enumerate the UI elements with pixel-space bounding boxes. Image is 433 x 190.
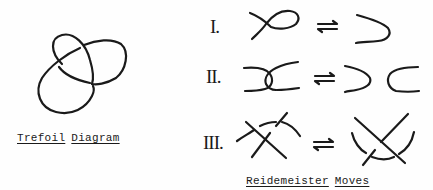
trefoil-knot-diagram bbox=[38, 35, 126, 114]
move-2-equivalence-arrow bbox=[315, 73, 334, 84]
move-3-right-triple-crossing bbox=[352, 114, 414, 165]
move-3-equivalence-arrow bbox=[314, 139, 333, 150]
move-1-equivalence-arrow bbox=[318, 21, 337, 32]
move-1-label: I. bbox=[210, 16, 219, 38]
move-1-right-curve bbox=[356, 15, 390, 43]
trefoil-caption-word: Diagram bbox=[71, 132, 119, 144]
move-2-right-separated bbox=[345, 66, 419, 92]
move-1-left-curl bbox=[250, 11, 298, 39]
reidemeister-caption: ReidemeisterMoves bbox=[246, 175, 369, 187]
reidemeister-caption-word: Reidemeister bbox=[246, 175, 329, 187]
reidemeister-caption-word: Moves bbox=[335, 175, 370, 187]
move-2-left-overlap bbox=[244, 62, 299, 91]
move-3-left-triple-crossing bbox=[237, 113, 300, 158]
move-2-label: II. bbox=[206, 66, 220, 88]
trefoil-caption: TrefoilDiagram bbox=[17, 132, 120, 144]
document-page: I. II. III. TrefoilDiagram ReidemeisterM… bbox=[0, 0, 433, 190]
move-3-label: III. bbox=[203, 132, 223, 154]
trefoil-caption-word: Trefoil bbox=[17, 132, 65, 144]
